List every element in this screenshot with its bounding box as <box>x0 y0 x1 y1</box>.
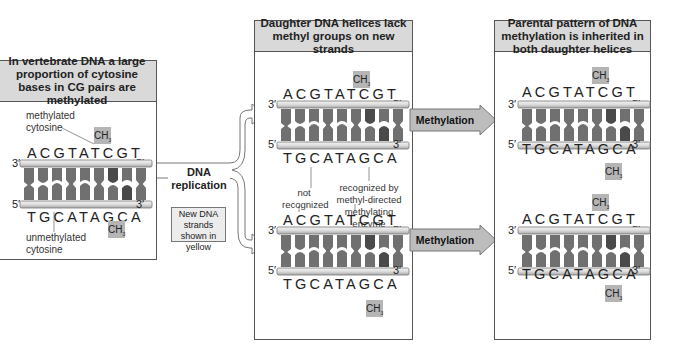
methylation-arrow-top: Methylation <box>410 103 500 143</box>
panel-title: Parental pattern of DNA methylation is i… <box>495 21 650 52</box>
top-strand-sequence: ACGTATCGT <box>522 84 638 100</box>
methylation-label: Methylation <box>416 234 474 246</box>
top-strand-sequence: ACGTATCGT <box>522 211 638 227</box>
methylation-label: Methylation <box>416 114 474 126</box>
strand-end-label: 3′ <box>268 224 276 236</box>
panel-inherited-methylation: Parental pattern of DNA methylation is i… <box>494 20 651 340</box>
methyl-label: CH <box>592 70 606 81</box>
methyl-label: CH <box>605 288 619 299</box>
methyl-group: CH3 <box>366 300 383 317</box>
bottom-strand-sequence: TGCATAGCA <box>522 266 639 282</box>
strand-end-label: 3′ <box>393 264 401 276</box>
methyl-group: CH3 <box>605 285 622 302</box>
bottom-strand-sequence: TGCATAGCA <box>283 276 400 292</box>
methyl-group: CH3 <box>592 67 609 84</box>
strand-end-label: 5′ <box>508 264 516 276</box>
strand-end-label: 5′ <box>268 264 276 276</box>
dna-helix-daughter-2 <box>277 227 409 275</box>
label-not-recognized: not recognized <box>282 187 326 211</box>
methyl-group: CH3 <box>592 194 609 211</box>
bottom-strand-sequence: TGCATAGCA <box>522 141 639 157</box>
methyl-label: CH <box>366 303 380 314</box>
strand-end-label: 3′ <box>508 98 516 110</box>
strand-end-label: 5′ <box>508 138 516 150</box>
methyl-label: CH <box>605 166 619 177</box>
strand-end-label: 3′ <box>508 224 516 236</box>
methylation-arrow-bottom: Methylation <box>410 223 500 263</box>
methyl-group: CH3 <box>605 163 622 180</box>
methyl-label: CH <box>592 197 606 208</box>
top-strand-sequence: ACGTATCGT <box>283 212 399 228</box>
